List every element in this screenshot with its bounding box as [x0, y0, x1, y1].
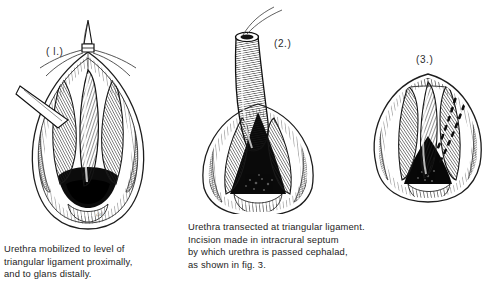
figure-3-intracrural-septum-incision: (3.) — [358, 58, 500, 208]
figure-2-drawing — [190, 4, 345, 214]
figure-1-drawing — [14, 8, 184, 233]
illustration-plate: ( l.) del. — [0, 0, 502, 284]
figure-3-drawing — [358, 58, 500, 208]
artist-signature: del. — [96, 211, 105, 218]
traction-suture — [243, 7, 282, 35]
caption-figure-1: Urethra mobilized to level of triangular… — [4, 243, 184, 281]
figure-1-label: ( l.) — [46, 46, 63, 57]
figure-2-label: (2.) — [274, 38, 291, 49]
clamp-instrument — [82, 20, 94, 52]
figure-2-urethra-transected: (2.) — [190, 4, 345, 214]
figure-3-label: (3.) — [416, 54, 433, 65]
figure-1-urethra-mobilized: ( l.) del. — [14, 8, 184, 233]
caption-figure-2-and-3: Urethra transected at triangular ligamen… — [188, 221, 403, 271]
